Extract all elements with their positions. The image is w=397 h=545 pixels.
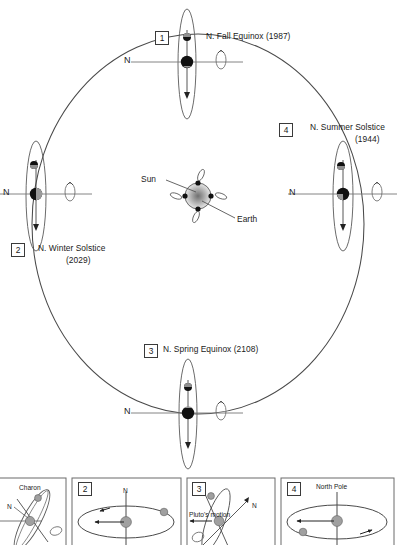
- panel-2-content: [78, 492, 174, 545]
- panel3-charon-body: [208, 493, 215, 500]
- charon-shadow-3: [184, 383, 192, 387]
- position-2-label-line1: N. Winter Solstice: [38, 243, 105, 254]
- panel4-orbit-direction-arrow: [360, 530, 372, 534]
- panel-4-north-pole-label: North Pole: [316, 483, 347, 490]
- earth-right-loop: [214, 192, 227, 201]
- charon-shadow-4: [337, 166, 345, 170]
- panel-4-content: [287, 492, 387, 545]
- position-4-n-marker: N: [289, 187, 296, 197]
- pluto-lit-2: [36, 188, 42, 200]
- position-1-label: N. Fall Equinox (1987): [206, 31, 290, 42]
- panel3-spin-axis: [200, 500, 248, 545]
- rotation-loop-arrow-4: [374, 182, 380, 185]
- pluto-seasons-diagram: 1 N. Fall Equinox (1987) N 4 N. Summer S…: [0, 0, 397, 545]
- sun-body: [185, 183, 211, 209]
- rotation-loop-3: [216, 402, 226, 420]
- position-4-group: [288, 141, 397, 251]
- earth-left-loop: [169, 192, 182, 201]
- rotation-loop-1: [216, 51, 226, 69]
- rotation-loop-arrow-1: [218, 50, 224, 53]
- charon-shadow-1: [183, 33, 191, 37]
- position-1-n-marker: N: [124, 55, 131, 65]
- sun-label: Sun: [141, 174, 156, 185]
- position-3-number: 3: [144, 344, 158, 358]
- position-1-number: 1: [155, 31, 169, 45]
- panel1-charon-body: [35, 495, 42, 502]
- position-3-n-marker: N: [124, 406, 131, 416]
- pluto-body-3: [182, 407, 194, 419]
- spin-axis-arrow-4: [340, 224, 346, 231]
- panel-2-n-label: N: [123, 487, 128, 494]
- sun-earth-group: [166, 168, 235, 223]
- earth-label: Earth: [237, 214, 257, 225]
- earth-bottom-loop: [191, 210, 201, 223]
- earth-bottom: [195, 206, 200, 211]
- panel1-pluto-body: [25, 516, 34, 525]
- panel-3-motion-label: Pluto's motion: [189, 511, 230, 518]
- panel-4-number: 4: [287, 482, 301, 496]
- panel-3-n-label: N: [252, 502, 257, 509]
- position-2-n-marker: N: [3, 187, 10, 197]
- earth-top: [195, 180, 200, 185]
- position-4-number: 4: [279, 123, 293, 137]
- panel-1-content: [0, 486, 63, 545]
- panel-1-charon-label: Charon: [19, 484, 41, 491]
- position-2-label-line2: (2029): [66, 255, 91, 266]
- position-3-label: N. Spring Equinox (2108): [163, 344, 258, 355]
- diagram-canvas: [0, 0, 397, 545]
- earth-leader-line: [202, 201, 235, 218]
- rotation-loop-arrow-3: [218, 401, 224, 404]
- panel1-rotation-loop: [49, 525, 63, 537]
- pluto-lit-3: [184, 406, 192, 408]
- panel2-charon-body: [160, 508, 168, 516]
- position-2-group: [0, 141, 92, 251]
- position-3-group: [131, 359, 243, 469]
- pluto-lit-4: [337, 194, 343, 200]
- spin-axis-arrow-2: [33, 224, 39, 231]
- rotation-loop-arrow-2: [67, 182, 73, 185]
- rotation-loop-4: [372, 183, 382, 201]
- pluto-orbit-ellipse: [32, 34, 364, 414]
- rotation-loop-2: [65, 183, 75, 201]
- earth-top-loop: [196, 168, 206, 181]
- panel1-charon-orbit: [8, 486, 56, 545]
- panel-2-number: 2: [78, 482, 92, 496]
- position-4-label-line1: N. Summer Solstice: [310, 122, 385, 133]
- spin-axis-arrow-1: [184, 92, 190, 99]
- panel-3-number: 3: [192, 482, 206, 496]
- earth-left: [182, 193, 187, 198]
- charon-shadow-2: [30, 165, 38, 169]
- position-2-number: 2: [11, 243, 25, 257]
- spin-axis-arrow-3: [185, 442, 191, 449]
- position-1-group: [131, 9, 243, 119]
- panel-1-n-label: N: [7, 503, 12, 510]
- position-4-label-line2: (1944): [355, 134, 380, 145]
- earth-right: [208, 193, 213, 198]
- panel4-charon-body: [299, 528, 307, 536]
